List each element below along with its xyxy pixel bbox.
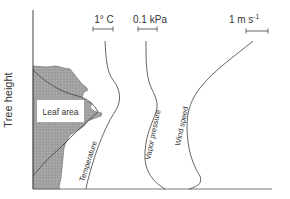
- wind-speed-scale-bar: 1 m s-1: [229, 13, 268, 34]
- temperature-scale-bar: 1° C: [93, 14, 114, 32]
- svg-text:1 m s-1: 1 m s-1: [229, 13, 260, 25]
- canopy-profile-diagram: Leaf area Tree height Temperature Vapor …: [0, 0, 290, 199]
- svg-text:0.1 kPa: 0.1 kPa: [133, 14, 167, 25]
- vapor-pressure-scale-bar: 0.1 kPa: [133, 14, 167, 32]
- leaf-area-region: [33, 66, 102, 189]
- wind-speed-curve: [187, 41, 253, 189]
- y-axis-label: Tree height: [2, 72, 14, 127]
- vapor-pressure-label: Vapor pressure: [143, 109, 162, 160]
- svg-text:1° C: 1° C: [94, 14, 114, 25]
- temperature-label: Temperature: [77, 140, 99, 183]
- leaf-area-label: Leaf area: [43, 107, 79, 117]
